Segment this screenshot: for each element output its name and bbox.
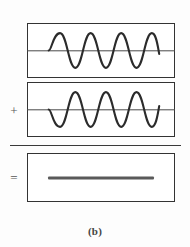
result-panel bbox=[27, 153, 175, 202]
wave-panel-1 bbox=[27, 23, 175, 78]
figure-caption: (b) bbox=[0, 225, 190, 237]
sum-divider bbox=[10, 145, 181, 146]
plus-operator: + bbox=[7, 104, 21, 117]
wave-curve-1 bbox=[28, 24, 174, 77]
resultant-flat-line bbox=[48, 176, 153, 179]
equals-operator: = bbox=[7, 171, 21, 184]
wave-panel-1-inner bbox=[28, 24, 174, 77]
result-panel-inner bbox=[28, 154, 174, 201]
interference-figure: + = (b) bbox=[0, 0, 190, 247]
wave-panel-2-inner bbox=[28, 83, 174, 136]
wave-curve-2 bbox=[28, 83, 174, 136]
wave-panel-2 bbox=[27, 82, 175, 137]
